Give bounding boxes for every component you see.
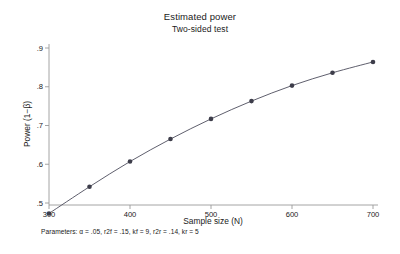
y-tick-label: .9 xyxy=(37,44,43,53)
data-point-marker xyxy=(168,137,173,142)
y-axis-title: Power (1−β) xyxy=(22,101,32,147)
data-point-marker xyxy=(249,99,254,104)
x-axis-title: Sample size (N) xyxy=(183,216,243,226)
y-tick-label: .5 xyxy=(37,199,43,208)
parameters-note: Parameters: α = .05, r2f = .15, kf = 9, … xyxy=(41,228,199,235)
y-tick-label: .7 xyxy=(37,121,43,130)
data-point-marker xyxy=(290,83,295,88)
y-tick-label: .8 xyxy=(37,82,43,91)
power-curve-markers xyxy=(47,60,376,216)
y-tick-label: .6 xyxy=(37,160,43,169)
data-point-marker xyxy=(209,117,214,122)
y-tick-group: .5.6.7.8.9 xyxy=(37,44,49,208)
x-tick-label: 600 xyxy=(286,210,299,219)
power-curve-line xyxy=(49,62,373,214)
data-point-marker xyxy=(128,159,133,164)
x-tick-label: 700 xyxy=(367,210,380,219)
data-point-marker xyxy=(371,60,376,65)
data-point-marker xyxy=(47,211,52,216)
y-axis: .5.6.7.8.9 xyxy=(37,44,49,208)
plot-area: .5.6.7.8.9 300400500600700 Sample size (… xyxy=(0,0,400,254)
data-point-marker xyxy=(330,71,335,76)
x-tick-label: 400 xyxy=(124,210,137,219)
data-point-marker xyxy=(87,184,92,189)
power-curve-chart: Estimated power Two-sided test .5.6.7.8.… xyxy=(0,0,400,254)
